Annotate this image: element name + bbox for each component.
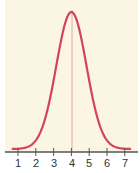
tick-label-7: 7 <box>122 157 128 169</box>
tick-label-2: 2 <box>33 157 39 169</box>
tick-label-5: 5 <box>86 157 92 169</box>
x-axis-tick-labels: 1 2 3 4 5 6 7 <box>15 157 128 169</box>
normal-distribution-chart: 1 2 3 4 5 6 7 <box>0 0 140 173</box>
tick-label-6: 6 <box>104 157 110 169</box>
tick-label-3: 3 <box>51 157 57 169</box>
tick-label-1: 1 <box>15 157 21 169</box>
tick-label-4: 4 <box>69 157 75 169</box>
